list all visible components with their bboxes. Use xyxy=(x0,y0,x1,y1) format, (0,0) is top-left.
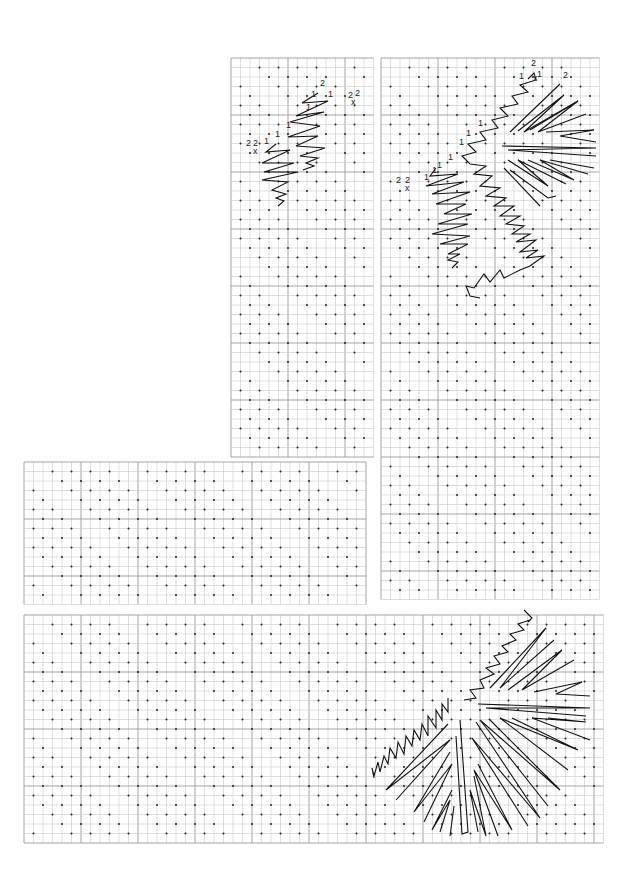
sequence-label: 1 xyxy=(537,69,542,79)
sequence-label: 1 xyxy=(275,129,280,139)
sequence-label: 2 xyxy=(396,175,401,185)
sequence-label: x xyxy=(253,146,258,156)
sequence-label: 2 xyxy=(246,138,251,148)
stitch-diagram: 21122x11122x1211x2111111122x xyxy=(0,0,638,896)
zigzag-stitch-e xyxy=(464,610,532,700)
sequence-label: 1 xyxy=(448,152,453,162)
sequence-label: 1 xyxy=(478,118,483,128)
sequence-label: x xyxy=(405,183,410,193)
sequence-label: 1 xyxy=(459,137,464,147)
sequence-label: 1 xyxy=(466,128,471,138)
sequence-label: x xyxy=(533,73,538,83)
sequence-label: 1 xyxy=(264,136,269,146)
grid-panel-right-column xyxy=(381,58,600,600)
sequence-label: 1 xyxy=(306,102,311,112)
sequence-label: 2 xyxy=(531,58,536,68)
sequence-label: 2 xyxy=(563,70,568,80)
stitch-lines xyxy=(262,73,596,836)
sequence-label: 1 xyxy=(328,89,333,99)
sequence-label: 1 xyxy=(437,160,442,170)
grid-panel-middle-left xyxy=(24,462,366,605)
zigzag-stitch-d xyxy=(426,168,472,268)
sequence-label: x xyxy=(351,97,356,107)
sequence-label: 1 xyxy=(424,172,429,182)
sequence-label: 1 xyxy=(286,120,291,130)
sequence-label: 2 xyxy=(320,78,325,88)
sequence-label: 1 xyxy=(519,71,524,81)
sequence-label: 2 xyxy=(355,88,360,98)
sequence-label: 1 xyxy=(311,89,316,99)
